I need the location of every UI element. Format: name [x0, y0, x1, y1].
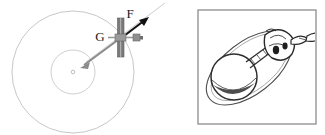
figure-root: F G	[0, 0, 325, 135]
inner-orbit-circle	[51, 50, 95, 94]
thrust-vector-label-F: F	[126, 6, 133, 21]
gravity-vector-arrowhead	[80, 62, 90, 69]
gravity-vector-label-G: G	[95, 29, 104, 44]
orbit-diagram-svg: F G	[0, 0, 186, 135]
spacecraft-sketch-svg	[186, 0, 325, 135]
module-port-left	[273, 46, 279, 54]
satellite-bus	[115, 34, 126, 41]
central-body-marker	[71, 70, 75, 74]
module-outline	[264, 30, 294, 61]
satellite-payload-tip	[140, 36, 143, 40]
right-panel-spacecraft-sketch	[186, 0, 325, 135]
module-port-right	[282, 43, 287, 50]
outer-orbit-circle	[12, 11, 134, 133]
satellite-payload-dish	[133, 34, 140, 41]
left-panel-orbit-diagram: F G	[0, 0, 186, 135]
